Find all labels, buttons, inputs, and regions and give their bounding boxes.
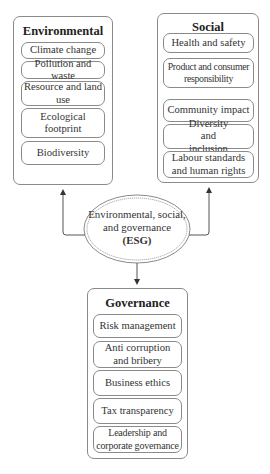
- gov-item-anti-corruption-and-bribery: Anti corruption and bribery: [93, 341, 182, 368]
- social-item-labour-standards-and-human-rights: Labour standards and human rights: [163, 151, 254, 178]
- social-item-product-and-consumer-responsibility: Product and consumer responsibility: [163, 58, 254, 88]
- env-item-resource-and-land-use: Resource and land use: [21, 81, 105, 106]
- arrow-to-environmental: [63, 192, 85, 235]
- environmental-title: Environmental: [14, 24, 112, 39]
- gov-item-leadership-and-corporate-governance: Leadership and corporate governance: [93, 426, 182, 453]
- env-item-biodiversity: Biodiversity: [21, 141, 105, 165]
- gov-item-tax-transparency: Tax transparency: [93, 398, 182, 424]
- social-item-health-and-safety: Health and safety: [163, 33, 254, 53]
- env-item-pollution-and-waste: Pollution and waste: [21, 61, 105, 79]
- env-item-ecological-footprint: Ecological footprint: [21, 108, 105, 138]
- gov-item-risk-management: Risk management: [93, 314, 182, 338]
- env-item-climate-change: Climate change: [21, 42, 105, 59]
- social-item-diversity-and-inclusion: Diversity and inclusion: [163, 124, 254, 149]
- governance-title: Governance: [88, 296, 187, 311]
- esg-center-line1: Environmental, social,: [85, 208, 189, 221]
- esg-center-line2: and governance: [85, 221, 189, 234]
- esg-center: Environmental, social, and governance (E…: [85, 208, 189, 247]
- esg-acronym: (ESG): [123, 234, 152, 246]
- gov-item-business-ethics: Business ethics: [93, 370, 182, 396]
- arrow-to-social: [189, 190, 209, 235]
- esg-center-line3: (ESG): [85, 234, 189, 247]
